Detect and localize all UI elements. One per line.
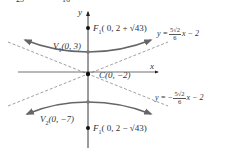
hyperbola-lower-branch	[27, 102, 88, 114]
vertex-bottom-point	[86, 100, 90, 104]
hyperbola-upper-branch-right	[88, 40, 151, 52]
hyperbola-lower-branch-right	[88, 102, 151, 114]
focus-top-point	[86, 26, 90, 30]
top-fragment-left: 25	[16, 0, 24, 4]
slope-fraction: 5√26	[173, 91, 185, 105]
top-fragment-right: 16	[62, 0, 70, 4]
focus-top-label: F1( 0, 2 + √43)	[93, 24, 147, 35]
x-axis-label: x	[150, 62, 154, 71]
vertex-bottom-label: V2(0, −7)	[40, 115, 74, 126]
focus-bottom-point	[86, 126, 90, 130]
vertex-top-label: V1(0, 3)	[53, 42, 81, 53]
center-label: C(0, −2)	[99, 71, 131, 80]
asymptote-lower-equation: y = − 5√26 x − 2	[155, 91, 204, 105]
slope-fraction: 5√26	[169, 27, 181, 41]
focus-bottom-label: F1( 0, 2 − √43)	[93, 124, 147, 135]
y-axis-label: y	[78, 8, 82, 17]
asymptote-upper-equation: y = 5√26 x − 2	[157, 27, 199, 41]
vertex-top-point	[86, 50, 90, 54]
center-point	[86, 72, 90, 76]
